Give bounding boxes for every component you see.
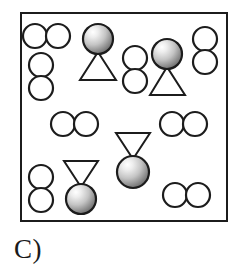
panel-label: C)	[14, 234, 42, 264]
reaction-container-box	[20, 12, 228, 222]
figure-panel-c: C)	[0, 0, 239, 275]
